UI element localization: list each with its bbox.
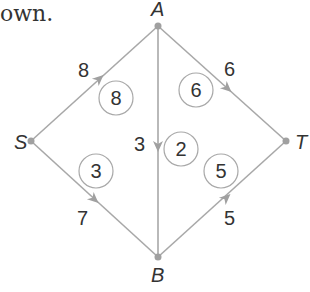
edge-s-a (31, 26, 158, 141)
flow-badge-a-t: 6 (179, 73, 213, 107)
node-b-dot (155, 254, 162, 261)
capacity-label-s-a: 8 (78, 59, 89, 81)
flow-badge-s-b: 3 (79, 154, 113, 188)
arrow-icon-b-t (219, 190, 234, 205)
edge-a-t (158, 26, 286, 141)
flow-value-a-b: 2 (175, 138, 186, 160)
capacity-label-s-b: 7 (77, 207, 88, 229)
flow-network-diagram: S A T B 8 6 3 7 5 8 6 2 3 5 (0, 0, 310, 292)
capacity-label-a-b: 3 (134, 133, 145, 155)
flow-value-s-b: 3 (90, 160, 101, 182)
flow-value-a-t: 6 (190, 79, 201, 101)
flow-badge-b-t: 5 (204, 154, 238, 188)
node-label-a: A (150, 0, 164, 20)
node-label-s: S (14, 131, 28, 153)
flow-value-b-t: 5 (215, 160, 226, 182)
capacity-label-a-t: 6 (224, 58, 235, 80)
flow-value-s-a: 8 (110, 87, 121, 109)
node-label-t: T (295, 131, 309, 153)
node-s-dot (28, 138, 35, 145)
node-label-b: B (151, 264, 164, 286)
flow-badge-a-b: 2 (164, 132, 198, 166)
capacity-label-b-t: 5 (224, 207, 235, 229)
node-a-dot (155, 23, 162, 30)
flow-badge-s-a: 8 (99, 81, 133, 115)
node-t-dot (283, 138, 290, 145)
